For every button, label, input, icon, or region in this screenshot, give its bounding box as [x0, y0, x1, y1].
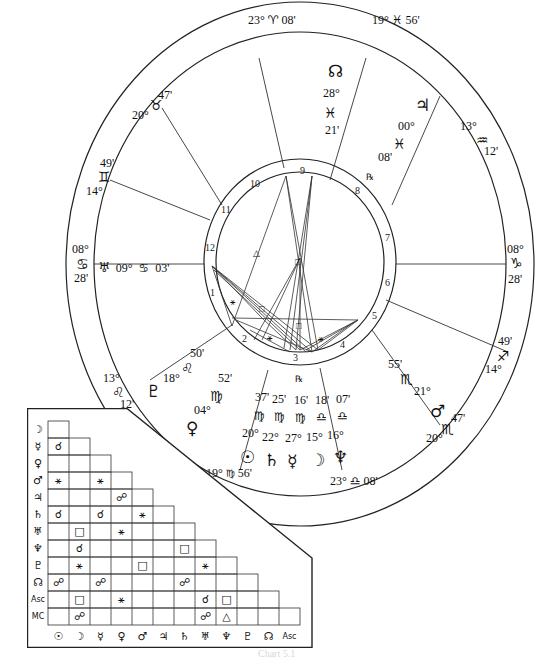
- grid-row-label: ♆: [29, 540, 47, 557]
- aspect-cell: ⚹: [132, 506, 153, 523]
- grid-row-label: ☿: [29, 438, 47, 455]
- cusp-minute: 08': [282, 13, 296, 27]
- trine-aspect-icon: △: [253, 247, 260, 259]
- north-node-degree: 28°: [323, 87, 340, 99]
- gemini-sign-icon: ♊: [98, 170, 111, 184]
- aspect-cell: ☌: [48, 506, 69, 523]
- cusp-11-deg: 20°: [132, 109, 149, 121]
- pluto-icon: ♇: [146, 383, 161, 400]
- north-node-icon: ☊: [328, 63, 343, 80]
- aspect-cell: □: [69, 523, 90, 540]
- grid-row-label: ♅: [29, 523, 47, 540]
- cusp-asc-min: 28': [74, 272, 88, 284]
- grid-col-label: ♃: [153, 627, 174, 645]
- jupiter-sign-pisces-icon: ♓: [393, 137, 406, 151]
- grid-col-label: ♀: [111, 627, 132, 645]
- grid-col-label: ♇: [237, 627, 258, 645]
- aspect-cell: ☍: [90, 574, 111, 591]
- sun-minute: 37': [255, 391, 269, 403]
- uranus-icon: ♅: [98, 260, 110, 275]
- grid-row-label: ♇: [29, 557, 47, 574]
- grid-col-label: ☉: [48, 627, 69, 645]
- aspect-cell: ☍: [69, 608, 90, 625]
- aspect-cell: ☌: [195, 591, 216, 608]
- cusp-degree: 23°: [248, 13, 265, 27]
- grid-row-label: ☽: [29, 421, 47, 438]
- mars-degree: 21°: [414, 385, 431, 397]
- aspect-cell: △: [216, 608, 237, 625]
- saturn-minute: 25': [272, 393, 286, 405]
- aspect-cell: ☍: [111, 489, 132, 506]
- aspect-cell: □: [132, 557, 153, 574]
- jupiter-minute: 08': [378, 151, 392, 163]
- square-aspect-icon: □: [259, 303, 264, 315]
- libra-sign-icon: ♎: [350, 474, 361, 488]
- cusp-2-deg: 13°: [103, 372, 120, 384]
- cusp-12-min: 49': [100, 157, 114, 169]
- uranus-sign-cancer-icon: ♋: [138, 261, 149, 275]
- house-number-9: 9: [300, 166, 305, 176]
- pluto-sign-leo-icon: ♌: [181, 361, 194, 375]
- aspect-cell: ☍: [48, 574, 69, 591]
- grid-row-label: ♄: [29, 506, 47, 523]
- grid-col-label: Asc: [279, 627, 300, 645]
- neptune-sign-libra-icon: ♎: [337, 409, 348, 423]
- sextile-aspect-icon: ⚹: [318, 333, 323, 345]
- aspect-cell: □: [216, 591, 237, 608]
- grid-col-label: ♂: [132, 627, 153, 645]
- pluto-minute: 50': [190, 347, 204, 359]
- house-number-6: 6: [385, 278, 390, 288]
- sextile-aspect-icon: ⚹: [230, 296, 235, 308]
- grid-row-label: ♀: [29, 455, 47, 472]
- jupiter-degree: 00°: [398, 120, 415, 132]
- cusp-degree: 23°: [330, 474, 347, 488]
- sextile-aspect-icon: ⚹: [267, 332, 272, 344]
- house-number-7: 7: [385, 233, 390, 243]
- house-number-11: 11: [221, 205, 231, 215]
- cusp-8-deg: 13°: [460, 120, 477, 132]
- grid-col-label: ♆: [216, 627, 237, 645]
- cusp-8-min: 12': [484, 145, 498, 157]
- mercury-retrograde-icon: ℞: [295, 373, 303, 385]
- jupiter-retrograde-icon: ℞: [366, 171, 374, 183]
- uranus-degree: 09°: [116, 261, 133, 275]
- uranus-position: ♅ 09° ♋ 03': [98, 262, 169, 274]
- grid-col-label: ♄: [174, 627, 195, 645]
- cusp-dsc-min: 28': [508, 273, 522, 285]
- venus-sign-virgo-icon: ♍: [210, 389, 223, 403]
- square-aspect-icon: □: [296, 320, 301, 332]
- neptune-minute: 07': [336, 393, 350, 405]
- aspect-cell: □: [69, 591, 90, 608]
- aspect-cell: ☍: [195, 608, 216, 625]
- aspect-cell: □: [174, 540, 195, 557]
- aries-sign-icon: ♈: [268, 13, 279, 27]
- cusp-5-deg: 20°: [426, 432, 443, 444]
- aspect-cell: ☌: [48, 438, 69, 455]
- house-number-10: 10: [250, 179, 260, 189]
- neptune-icon: ♆: [333, 449, 348, 466]
- aspect-grid: ☽☿☌♀♂⚹⚹♃☍♄☌☌⚹♅□⚹♆☌□♇⚹□⚹☊☍☍☍Asc□⚹☌□MC☍☍△☉…: [27, 408, 317, 648]
- cusp-ic-label: 23° ♎ 08': [330, 475, 378, 487]
- cusp-6-min: 49': [498, 335, 512, 347]
- cusp-6-deg: 14°: [485, 363, 502, 375]
- cusp-dsc-deg: 08°: [507, 243, 524, 255]
- cancer-sign-icon: ♋: [76, 257, 89, 271]
- aspect-cell: ⚹: [48, 472, 69, 489]
- aspect-cell: ⚹: [111, 591, 132, 608]
- grid-col-label: ♅: [195, 627, 216, 645]
- mars-icon: ♂: [430, 403, 445, 420]
- cusp-asc-deg: 08°: [72, 243, 89, 255]
- taurus-sign-icon: ♉: [150, 98, 163, 112]
- chart-caption: Chart 5.1: [258, 648, 295, 659]
- cusp-minute: 56': [406, 13, 420, 27]
- square-aspect-icon: □: [295, 256, 300, 268]
- capricorn-sign-icon: ♑: [510, 256, 523, 270]
- house-number-8: 8: [355, 186, 360, 196]
- house-number-4: 4: [340, 340, 345, 350]
- grid-row-label: ♂: [29, 472, 47, 489]
- mars-sign-scorpio-icon: ♏: [400, 372, 413, 386]
- aspect-cell: ☍: [174, 574, 195, 591]
- mars-minute: 55': [388, 358, 402, 370]
- house-number-2: 2: [242, 334, 247, 344]
- grid-col-label: ☽: [69, 627, 90, 645]
